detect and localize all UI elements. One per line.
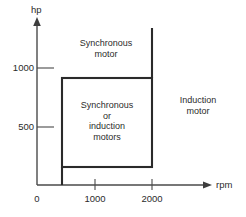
region-label-line: motor [162, 106, 234, 117]
x-tick-label-0: 0 [27, 193, 47, 204]
region-label-line: Synchronous [60, 38, 152, 49]
region-label-line: motors [62, 132, 152, 143]
region-label-induction-motor: Induction motor [162, 95, 234, 116]
x-tick-label-2000: 2000 [132, 193, 172, 204]
motor-selection-chart: hp rpm 1000 500 0 1000 2000 Synchronous … [0, 0, 246, 217]
region-label-line: Synchronous [62, 100, 152, 111]
x-axis-title: rpm [216, 179, 232, 190]
y-axis-arrow-icon [33, 17, 41, 26]
y-axis-title: hp [31, 4, 42, 15]
y-tick-label-500: 500 [0, 121, 34, 132]
region-label-line: motor [60, 49, 152, 60]
region-label-line: or [62, 111, 152, 122]
region-label-synchronous-or-induction: Synchronous or induction motors [62, 100, 152, 142]
region-label-line: Induction [162, 95, 234, 106]
x-axis-arrow-icon [203, 181, 212, 188]
y-tick-label-1000: 1000 [0, 62, 34, 73]
x-tick-label-1000: 1000 [75, 193, 115, 204]
region-label-synchronous-motor: Synchronous motor [60, 38, 152, 59]
region-label-line: induction [62, 121, 152, 132]
